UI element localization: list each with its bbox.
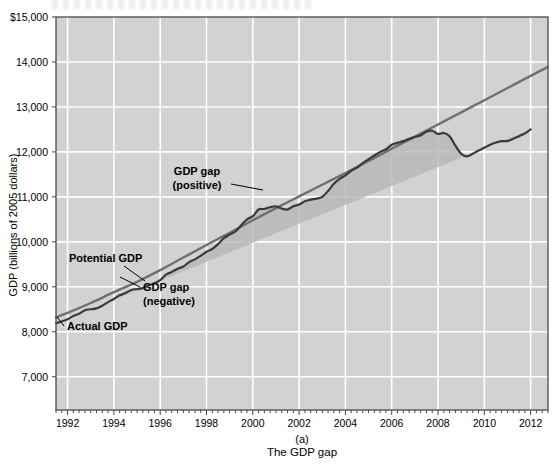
x-axis-tick-label: 1998 — [195, 417, 219, 429]
y-axis-title: GDP (billions of 2005 dollars) — [7, 154, 19, 297]
x-axis-tick-label: 2000 — [241, 417, 265, 429]
annotation-gdp-gap-positive-line1: GDP gap — [174, 165, 221, 177]
annotation-potential-gdp-label: Potential GDP — [69, 252, 142, 264]
x-axis-tick-label: 2010 — [473, 417, 497, 429]
x-axis-tick-label: 1996 — [149, 417, 173, 429]
x-axis-tick-label: 2012 — [519, 417, 543, 429]
x-axis-tick-label: 2002 — [287, 417, 311, 429]
y-axis-tick-label: 14,000 — [16, 56, 48, 68]
annotation-gdp-gap-negative-line1: GDP gap — [143, 281, 190, 293]
y-axis-tick-label: 9,000 — [22, 281, 48, 293]
x-axis-tick-label: 1992 — [56, 417, 80, 429]
gdp-gap-chart: 7,0008,0009,00010,00011,00012,00013,0001… — [0, 0, 558, 468]
annotation-gdp-gap-positive-line2: (positive) — [173, 179, 222, 191]
x-axis-tick-label: 2006 — [380, 417, 404, 429]
y-axis-tick-label: $15,000 — [10, 11, 48, 23]
x-axis-tick-labels: 1992199419961998200020022004200620082010… — [56, 417, 543, 429]
y-axis-tick-label: 7,000 — [22, 371, 48, 383]
figure-caption-title: The GDP gap — [267, 446, 337, 458]
figure-caption-letter: (a) — [295, 433, 308, 445]
y-axis-tick-label: 10,000 — [16, 236, 48, 248]
y-axis-tick-label: 8,000 — [22, 326, 48, 338]
x-axis-tick-label: 2004 — [334, 417, 358, 429]
annotation-actual-gdp-label: Actual GDP — [67, 320, 128, 332]
y-axis-tick-label: 13,000 — [16, 101, 48, 113]
x-axis-tick-label: 2008 — [426, 417, 450, 429]
x-axis-tick-label: 1994 — [102, 417, 126, 429]
y-axis-tick-label: 11,000 — [17, 191, 48, 203]
annotation-actual-gdp: Actual GDP — [57, 317, 128, 332]
annotation-gdp-gap-negative-line2: (negative) — [143, 295, 195, 307]
gdp-gap-figure: 7,0008,0009,00010,00011,00012,00013,0001… — [0, 0, 558, 468]
y-axis-tick-label: 12,000 — [16, 146, 48, 158]
